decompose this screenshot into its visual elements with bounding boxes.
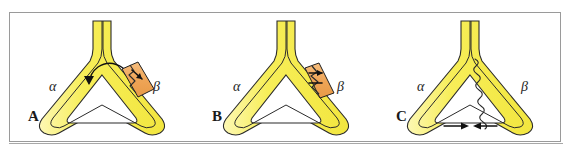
panel-c-beta-label: β xyxy=(521,79,528,95)
figure-root: A α β xyxy=(0,0,577,156)
panel-b-alpha-label: α xyxy=(233,79,240,95)
panel-letter-b: B xyxy=(212,108,222,125)
panel-a-alpha-label: α xyxy=(49,79,56,95)
panel-a: A α β xyxy=(10,13,194,143)
panel-b-beta-label: β xyxy=(337,79,344,95)
figure-frame: A α β xyxy=(9,12,561,142)
panel-letter-c: C xyxy=(396,108,407,125)
panel-letter-a: A xyxy=(28,108,39,125)
panel-a-beta-label: β xyxy=(153,79,160,95)
panel-b: B α β xyxy=(194,13,378,143)
panel-c: C α β xyxy=(378,13,562,143)
panel-c-alpha-label: α xyxy=(417,79,424,95)
